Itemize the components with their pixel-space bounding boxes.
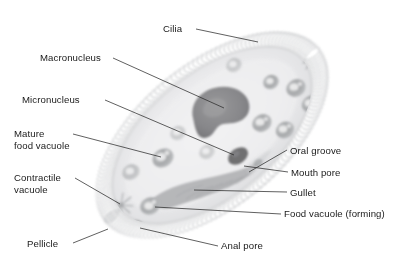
label-contractile-vacuole: Contractile vacuole [14,172,61,195]
label-mouth-pore: Mouth pore [291,167,341,179]
label-macronucleus: Macronucleus [40,52,101,64]
label-gullet: Gullet [290,187,316,199]
label-contractile-vacuole-line1: Contractile [14,172,61,184]
leader-pellicle [73,229,108,243]
label-pellicle: Pellicle [27,238,58,250]
label-oral-groove: Oral groove [290,145,341,157]
label-cilia: Cilia [163,23,182,35]
label-mature-food-vacuole-line2: food vacuole [14,140,70,152]
label-anal-pore: Anal pore [221,240,263,252]
label-micronucleus: Micronucleus [22,94,80,106]
label-food-vacuole-forming: Food vacuole (forming) [284,208,385,220]
paramecium-diagram: Cilia Macronucleus Micronucleus Mature f… [0,0,414,271]
label-contractile-vacuole-line2: vacuole [14,184,61,196]
label-mature-food-vacuole-line1: Mature [14,128,70,140]
label-mature-food-vacuole: Mature food vacuole [14,128,70,151]
